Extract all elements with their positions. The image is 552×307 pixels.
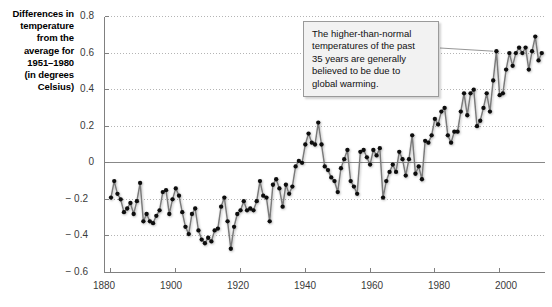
callout-line: global warming. xyxy=(312,78,431,90)
x-axis-ticks xyxy=(111,268,500,273)
callout-line: 35 years are generally xyxy=(312,53,431,65)
global-warming-callout: The higher-than-normal temperatures of t… xyxy=(303,21,439,97)
plot-area xyxy=(0,0,552,307)
callout-line: temperatures of the past xyxy=(312,40,431,52)
callout-line: believed to be due to xyxy=(312,65,431,77)
callout-line: The higher-than-normal xyxy=(312,28,431,40)
y-axis-ticks xyxy=(105,17,110,273)
annotation-leader-line xyxy=(440,48,493,51)
temperature-anomaly-chart: Differences in temperature from the aver… xyxy=(0,0,552,307)
